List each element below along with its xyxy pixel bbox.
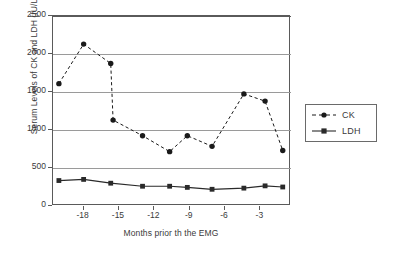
x-tick-label: -6 [209, 211, 239, 220]
x-tick-mark [153, 206, 154, 210]
data-point-ldh[interactable] [56, 178, 61, 183]
y-tick-label: 0 [0, 200, 46, 209]
plot-area [52, 15, 290, 205]
y-axis-title: Serum Levels of CK and LDH (IU/L) [29, 0, 39, 165]
data-point-ldh[interactable] [263, 183, 268, 188]
data-point-ck[interactable] [56, 81, 61, 86]
data-point-ck[interactable] [209, 144, 214, 149]
data-point-ck[interactable] [81, 41, 86, 46]
data-point-ldh[interactable] [81, 177, 86, 182]
x-axis-title: Months prior th the EMG [52, 228, 290, 238]
legend-label-ck: CK [342, 110, 355, 120]
legend-swatch-dashed-circle [311, 109, 337, 121]
y-tick-label: 1000 [0, 124, 46, 133]
data-point-ldh[interactable] [280, 185, 285, 190]
x-tick-mark [83, 206, 84, 210]
chart-figure: Serum Levels of CK and LDH (IU/L) Months… [0, 0, 394, 255]
data-point-ck[interactable] [108, 61, 113, 66]
data-point-ck[interactable] [167, 149, 172, 154]
x-tick-label: -9 [174, 211, 204, 220]
x-tick-label: -12 [138, 211, 168, 220]
data-point-ldh[interactable] [241, 186, 246, 191]
x-tick-mark [224, 206, 225, 210]
legend-item-ldh[interactable]: LDH [311, 124, 361, 138]
legend-item-ck[interactable]: CK [311, 108, 355, 122]
data-point-ck[interactable] [185, 133, 190, 138]
y-tick-label: 1500 [0, 86, 46, 95]
data-point-ldh[interactable] [185, 185, 190, 190]
data-point-ck[interactable] [262, 98, 267, 103]
x-tick-label: -18 [68, 211, 98, 220]
data-point-ldh[interactable] [167, 184, 172, 189]
legend-label-ldh: LDH [342, 126, 361, 136]
data-point-ck[interactable] [280, 148, 285, 153]
x-tick-mark [118, 206, 119, 210]
legend-swatch-solid-square [311, 125, 337, 137]
y-tick-label: 2500 [0, 10, 46, 19]
x-tick-mark [189, 206, 190, 210]
plot-svg [53, 16, 291, 206]
chart-legend: CK LDH [305, 104, 377, 142]
data-point-ldh[interactable] [108, 181, 113, 186]
y-tick-mark [48, 205, 52, 206]
x-tick-label: -15 [103, 211, 133, 220]
data-point-ldh[interactable] [140, 184, 145, 189]
data-point-ck[interactable] [110, 117, 115, 122]
y-tick-label: 2000 [0, 48, 46, 57]
x-tick-label: -3 [244, 211, 274, 220]
data-point-ck[interactable] [241, 91, 246, 96]
y-tick-label: 500 [0, 162, 46, 171]
series-line-ck [59, 44, 283, 152]
x-tick-mark [259, 206, 260, 210]
data-point-ldh[interactable] [210, 187, 215, 192]
data-point-ck[interactable] [140, 133, 145, 138]
